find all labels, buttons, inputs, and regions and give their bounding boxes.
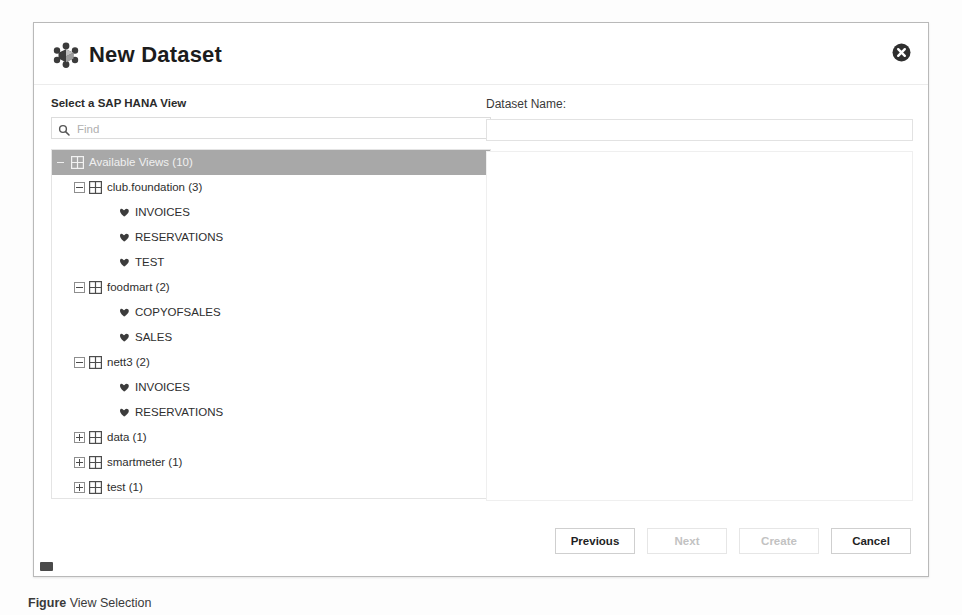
collapse-icon[interactable] [74, 357, 85, 368]
tree-node-label: TEST [135, 256, 164, 269]
screenshot-root: New Dataset Select a SAP HANA View [0, 0, 962, 615]
grid-icon [71, 156, 84, 169]
dialog-body: Select a SAP HANA View Available Views (… [34, 85, 928, 514]
grid-icon [89, 456, 102, 469]
dataset-name-label: Dataset Name: [486, 97, 913, 111]
tree-node-label: foodmart (2) [107, 281, 170, 294]
footer-button-group: PreviousNextCreateCancel [555, 528, 911, 554]
grid-icon [89, 181, 102, 194]
dataset-name-pane: Dataset Name: [486, 97, 913, 501]
search-input[interactable] [75, 118, 486, 140]
next-button: Next [647, 528, 727, 554]
tree-node-label: smartmeter (1) [107, 456, 182, 469]
grid-icon [89, 356, 102, 369]
expand-icon[interactable] [74, 432, 85, 443]
hana-view-tree[interactable]: Available Views (10)club.foundation (3)I… [51, 149, 491, 499]
tree-node-label: Available Views (10) [89, 156, 193, 169]
expand-icon[interactable] [74, 482, 85, 493]
resize-handle[interactable] [40, 562, 53, 571]
tree-node-label: SALES [135, 331, 172, 344]
grid-icon [89, 281, 102, 294]
tree-node[interactable]: club.foundation (3) [52, 175, 490, 200]
figure-caption-text: View Selection [70, 596, 152, 610]
view-leaf-icon [119, 232, 130, 243]
figure-caption: Figure View Selection [28, 596, 151, 610]
tree-node[interactable]: Available Views (10) [52, 150, 490, 175]
tree-node[interactable]: COPYOFSALES [52, 300, 490, 325]
tree-node-label: COPYOFSALES [135, 306, 221, 319]
collapse-icon[interactable] [74, 182, 85, 193]
dataset-cube-icon [52, 41, 80, 69]
dataset-preview-panel [486, 151, 913, 501]
tree-node[interactable]: INVOICES [52, 375, 490, 400]
tree-rows-container: Available Views (10)club.foundation (3)I… [52, 150, 490, 499]
tree-node-label: nett3 (2) [107, 356, 150, 369]
grid-icon [89, 431, 102, 444]
tree-node[interactable]: nett3 (2) [52, 350, 490, 375]
tree-node-label: RESERVATIONS [135, 231, 223, 244]
tree-spacer [104, 332, 115, 343]
dialog-footer: PreviousNextCreateCancel [34, 514, 928, 576]
tree-node[interactable]: test (1) [52, 475, 490, 499]
previous-button[interactable]: Previous [555, 528, 635, 554]
view-leaf-icon [119, 207, 130, 218]
view-selection-label: Select a SAP HANA View [51, 97, 491, 109]
dialog-title: New Dataset [89, 41, 222, 69]
figure-caption-prefix: Figure [28, 596, 66, 610]
tree-node[interactable]: RESERVATIONS [52, 400, 490, 425]
tree-spacer [104, 307, 115, 318]
tree-spacer [104, 382, 115, 393]
cancel-button[interactable]: Cancel [831, 528, 911, 554]
expand-icon[interactable] [74, 457, 85, 468]
tree-spacer [104, 407, 115, 418]
view-leaf-icon [119, 307, 130, 318]
create-button: Create [739, 528, 819, 554]
tree-node[interactable]: TEST [52, 250, 490, 275]
tree-node-label: INVOICES [135, 381, 190, 394]
tree-node[interactable]: SALES [52, 325, 490, 350]
tree-node-label: INVOICES [135, 206, 190, 219]
tree-node[interactable]: foodmart (2) [52, 275, 490, 300]
tree-node-label: data (1) [107, 431, 147, 444]
view-leaf-icon [119, 332, 130, 343]
tree-node-label: RESERVATIONS [135, 406, 223, 419]
tree-node[interactable]: RESERVATIONS [52, 225, 490, 250]
view-leaf-icon [119, 257, 130, 268]
view-selection-pane: Select a SAP HANA View Available Views (… [51, 97, 491, 499]
search-box[interactable] [51, 117, 491, 139]
tree-node-label: test (1) [107, 481, 143, 494]
grid-icon [89, 481, 102, 494]
tree-node[interactable]: INVOICES [52, 200, 490, 225]
view-leaf-icon [119, 382, 130, 393]
tree-spacer [104, 257, 115, 268]
dataset-name-input[interactable] [486, 119, 913, 141]
tree-node-label: club.foundation (3) [107, 181, 202, 194]
dialog-header: New Dataset [34, 23, 928, 85]
tree-spacer [104, 232, 115, 243]
search-icon [58, 122, 70, 134]
close-icon[interactable] [892, 43, 911, 62]
collapse-icon[interactable] [74, 282, 85, 293]
new-dataset-dialog: New Dataset Select a SAP HANA View [33, 22, 929, 577]
tree-node[interactable]: smartmeter (1) [52, 450, 490, 475]
collapse-icon[interactable] [56, 157, 67, 168]
tree-node[interactable]: data (1) [52, 425, 490, 450]
view-leaf-icon [119, 407, 130, 418]
tree-spacer [104, 207, 115, 218]
